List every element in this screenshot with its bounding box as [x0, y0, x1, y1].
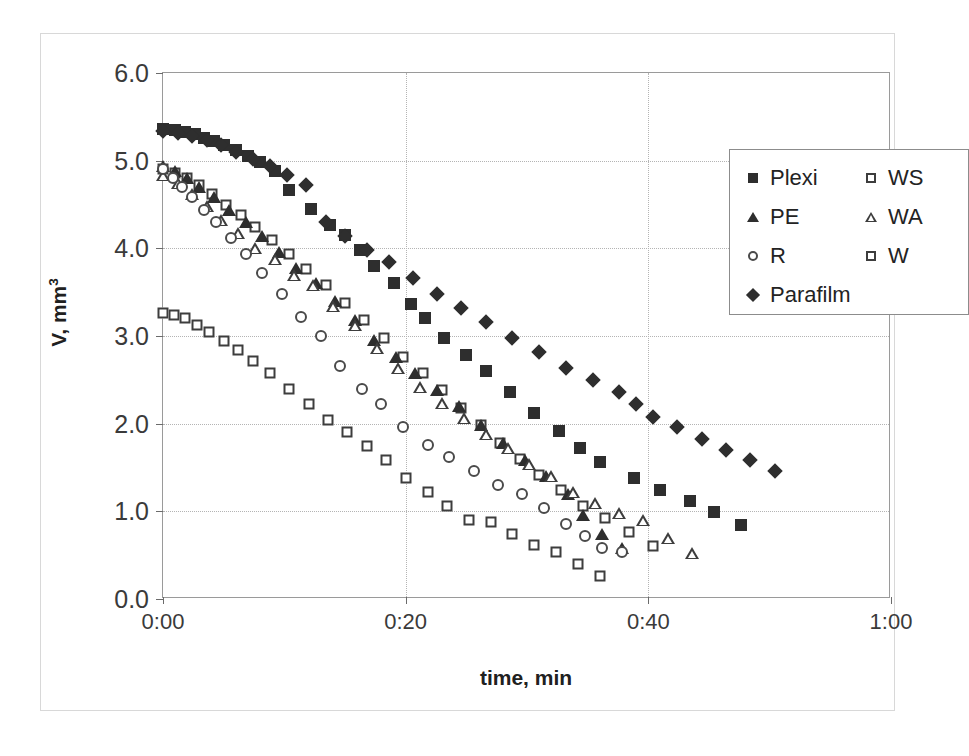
data-point — [718, 442, 734, 458]
legend-item-ws[interactable]: WS — [862, 158, 923, 197]
y-tick-label: 5.0 — [114, 146, 149, 175]
legend-item-label: W — [888, 243, 909, 269]
legend-item-label: PE — [770, 204, 799, 230]
legend-item-label: Plexi — [770, 165, 818, 191]
legend-item-label: R — [770, 243, 786, 269]
legend-column-left: PlexiPERParafilm — [744, 158, 851, 314]
data-point — [405, 270, 421, 286]
data-point — [742, 453, 758, 469]
y-tick-mark — [156, 424, 163, 425]
x-tick-label: 0:00 — [142, 609, 185, 635]
legend-item-plexi[interactable]: Plexi — [744, 158, 851, 197]
y-tick-mark — [156, 511, 163, 512]
data-point — [767, 463, 783, 479]
y-tick-label: 4.0 — [114, 234, 149, 263]
legend-marker-icon — [744, 286, 762, 304]
x-tick-label: 0:40 — [627, 609, 670, 635]
plot-area: 0.01.02.03.04.05.06.0 0:000:200:401:00 P… — [162, 72, 890, 598]
data-point — [628, 397, 644, 413]
data-point — [262, 158, 278, 174]
data-point — [170, 125, 186, 141]
x-tick-label: 0:20 — [384, 609, 427, 635]
data-point — [228, 144, 244, 160]
data-point — [611, 384, 627, 400]
data-point — [645, 409, 661, 425]
data-point — [478, 314, 494, 330]
x-tick-mark — [891, 597, 892, 604]
data-point — [454, 300, 470, 316]
legend-item-w[interactable]: W — [862, 236, 923, 275]
data-point — [670, 419, 686, 435]
y-axis-title: V, mm3 — [46, 233, 71, 393]
x-axis-title: time, min — [162, 666, 890, 690]
y-tick-label: 3.0 — [114, 322, 149, 351]
data-point — [531, 344, 547, 360]
data-point — [558, 360, 574, 376]
data-point — [213, 137, 229, 153]
data-point — [694, 432, 710, 448]
y-tick-mark — [156, 599, 163, 600]
legend-marker-icon — [862, 169, 880, 187]
data-point — [184, 128, 200, 144]
y-axis-title-exponent: 3 — [46, 278, 61, 286]
y-tick-label: 2.0 — [114, 409, 149, 438]
legend-item-parafilm[interactable]: Parafilm — [744, 275, 851, 314]
data-point — [337, 228, 353, 244]
legend-item-wa[interactable]: WA — [862, 197, 923, 236]
data-point — [585, 372, 601, 388]
legend-item-label: Parafilm — [770, 282, 851, 308]
data-point — [429, 286, 445, 302]
data-point — [298, 177, 314, 193]
data-point — [245, 151, 261, 167]
data-point — [279, 167, 295, 183]
legend-item-label: WS — [888, 165, 923, 191]
legend-marker-icon — [744, 247, 762, 265]
legend-column-right: WSWAW — [862, 158, 923, 275]
data-point — [318, 214, 334, 230]
y-tick-mark — [156, 248, 163, 249]
y-tick-label: 1.0 — [114, 497, 149, 526]
x-tick-label: 1:00 — [870, 609, 913, 635]
y-tick-mark — [156, 73, 163, 74]
x-tick-mark — [648, 597, 649, 604]
legend-item-label: WA — [888, 204, 923, 230]
legend-marker-icon — [744, 169, 762, 187]
y-axis-title-text: V, mm — [47, 286, 70, 347]
legend-marker-icon — [744, 208, 762, 226]
y-tick-label: 6.0 — [114, 59, 149, 88]
chart-legend[interactable]: PlexiPERParafilm WSWAW — [729, 149, 969, 315]
data-point — [359, 242, 375, 258]
data-point — [505, 330, 521, 346]
x-tick-mark — [406, 597, 407, 604]
legend-item-r[interactable]: R — [744, 236, 851, 275]
legend-marker-icon — [862, 208, 880, 226]
data-point — [199, 132, 215, 148]
x-tick-mark — [163, 597, 164, 604]
data-point — [381, 255, 397, 271]
legend-item-pe[interactable]: PE — [744, 197, 851, 236]
legend-marker-icon — [862, 247, 880, 265]
y-tick-mark — [156, 336, 163, 337]
